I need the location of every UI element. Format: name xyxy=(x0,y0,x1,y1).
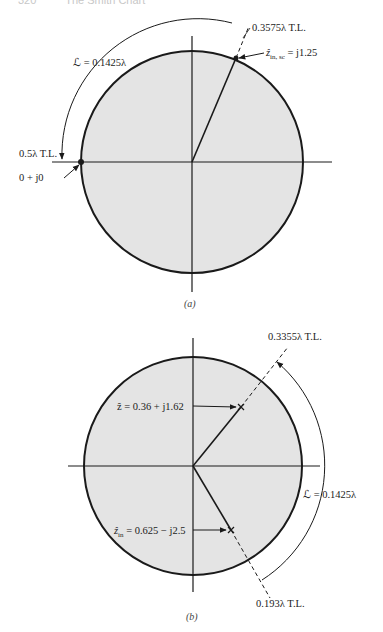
figure-a: 0.3575λ T.L. ẑin, sc = j1.25 ℒ = 0.1425λ… xyxy=(19,19,332,310)
arrow-zin-sc xyxy=(239,53,264,58)
short-circuit-point xyxy=(78,159,84,165)
label-z-load: ẑ = 0.36 + j1.62 xyxy=(117,401,184,412)
label-tl-top-a: 0.3575λ T.L. xyxy=(252,22,306,33)
label-origin-point: 0 + j0 xyxy=(19,172,44,183)
label-tl-left-a: 0.5λ T.L. xyxy=(19,148,57,159)
label-zin-sc: ẑin, sc = j1.25 xyxy=(265,47,317,61)
arrow-origin-point xyxy=(64,165,79,178)
label-length-a: ℒ = 0.1425λ xyxy=(73,57,127,68)
label-length-b: ℒ = 0.1425λ xyxy=(303,489,357,500)
leader-tl-top-a xyxy=(243,28,250,38)
label-tl-bottom-b: 0.193λ T.L. xyxy=(256,598,305,609)
label-tl-top-b: 0.3355λ T.L. xyxy=(268,331,322,342)
caption-b: (b) xyxy=(186,611,198,623)
caption-a: (a) xyxy=(184,298,196,310)
smith-chart-figures: 0.3575λ T.L. ẑin, sc = j1.25 ℒ = 0.1425λ… xyxy=(0,0,383,632)
figure-b: 0.3355λ T.L. ẑ = 0.36 + j1.62 ℒ = 0.1425… xyxy=(68,331,357,623)
zin-sc-point xyxy=(234,56,239,61)
dashed-extension-a xyxy=(236,26,249,58)
